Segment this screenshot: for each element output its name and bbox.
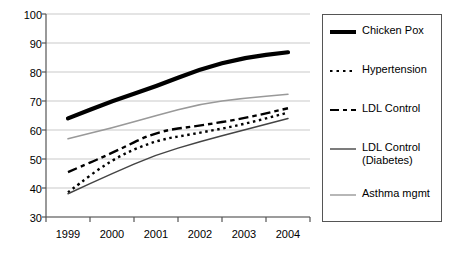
legend-item-ldl-control-diabetes[interactable]: LDL Control (Diabetes) [329,141,420,167]
axis-ticks [42,14,310,222]
legend-label: LDL Control (Diabetes) [362,141,420,167]
legend-label: LDL Control [362,102,420,115]
dotted-swatch-icon [329,64,357,78]
dashed-swatch-icon [329,103,357,117]
series-lines [68,52,288,194]
thick-solid-swatch-icon [329,25,357,39]
legend-item-asthma-mgmt[interactable]: Asthma mgmt [329,187,430,201]
legend-label: Hypertension [362,63,427,76]
light-solid-swatch-icon [329,188,357,202]
gridlines [46,14,310,217]
axis-lines [46,14,310,217]
legend-item-ldl-control[interactable]: LDL Control [329,102,420,116]
legend-label: Chicken Pox [362,24,424,37]
legend-item-hypertension[interactable]: Hypertension [329,63,427,77]
legend-label: Asthma mgmt [362,187,430,200]
legend: Chicken Pox Hypertension LDL Control LDL… [322,14,442,222]
thin-solid-swatch-icon [329,142,357,156]
series-line [68,113,288,193]
line-chart: 100 90 80 70 60 50 40 30 1999 2000 2001 … [0,0,449,255]
series-line [68,108,288,172]
legend-item-chicken-pox[interactable]: Chicken Pox [329,24,424,38]
series-line [68,52,288,118]
